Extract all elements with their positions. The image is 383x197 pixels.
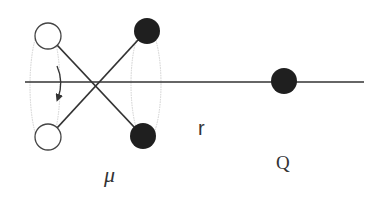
filled-charge-bottom <box>130 123 156 149</box>
open-charge-bottom <box>35 124 61 150</box>
label-mu: μ <box>103 162 115 187</box>
label-q: Q <box>276 152 290 173</box>
filled-charge-top <box>134 18 160 44</box>
point-charge-q <box>271 68 297 94</box>
open-charge-top <box>35 23 61 49</box>
label-r: r <box>198 117 205 139</box>
dipole-rod-2 <box>57 40 138 128</box>
dipole-charge-diagram: μ r Q <box>0 0 383 197</box>
